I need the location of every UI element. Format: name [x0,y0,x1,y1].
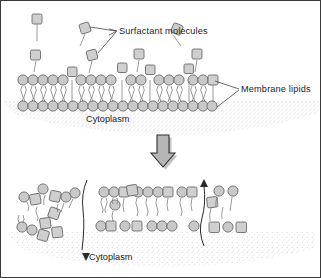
lipid-head [38,184,48,194]
lipid-head-inner [88,101,98,111]
surfactant-free-tilted [86,49,98,73]
lipid-head-outer [38,75,48,85]
lipid-head [177,187,187,197]
lipid-head [189,221,199,231]
lipid-head-inner [108,101,118,111]
lipid-head-inner [148,101,158,111]
surfactant-square [163,187,173,197]
lipid-head-outer [198,75,208,85]
lipid-head-inner [58,101,68,111]
surfactant-square [39,217,51,229]
lipid-head [17,222,27,232]
lipid-head-outer [58,75,68,85]
diagram-canvas: Surfactant molecules Membrane lipids Cyt… [1,1,321,278]
lipid-head [110,200,120,210]
surfactant-square [49,190,61,202]
lipid-head [228,186,238,196]
lipid-head-inner [28,101,38,111]
lipid-head [214,186,224,196]
lipid-head-outer [126,75,136,85]
lipid-head [157,221,167,231]
surfactant-free [32,14,42,41]
lipid-head-inner [158,101,168,111]
surfactant-square [132,221,142,231]
surfactant-free [31,50,41,72]
lipid-head-inner [138,101,148,111]
lipid-head-inner [188,101,198,111]
surfactant-free-tilted [79,22,92,46]
lipid-head-inner [118,101,128,111]
membrane-lipids-label: Membrane lipids [241,84,311,94]
surfactant-square [209,222,220,233]
lipid-head [96,221,106,231]
lipid-head [19,192,29,202]
cytoplasm-label-bottom: Cytoplasm [89,252,133,262]
surfactant-square [52,226,64,238]
lipid-head-outer [86,75,96,85]
lipid-head-inner [98,101,108,111]
lipid-head-outer [18,75,28,85]
lipid-head-outer [48,75,58,85]
lipid-head [153,187,163,197]
membrane-fragment-right [207,186,247,233]
surfactant-inserted [146,65,156,102]
lipid-head-outer [174,75,184,85]
surfactant-square [126,184,138,196]
lipid-head-outer [136,75,146,85]
surfactant-inserted [68,67,78,102]
surfactant-square [37,229,50,242]
cytoplasm-label-top: Cytoplasm [86,114,130,124]
lipid-head-outer [188,75,198,85]
lipid-head [27,225,37,235]
surfactant-square [187,187,197,197]
lipid-head [109,187,119,197]
lipid-head-inner [78,101,88,111]
surfactant-inserted [118,63,128,102]
lipid-head-inner [68,101,78,111]
surfactant-square [106,221,116,231]
lipid-head-outer [106,75,116,85]
lipid-head-inner [207,101,217,111]
lipid-head-outer [96,75,106,85]
lipid-head-inner [168,101,178,111]
lipid-head-inner [38,101,48,111]
membrane-fragment-middle [96,184,199,231]
lipid-head-inner [18,101,28,111]
lipid-head [70,188,80,198]
lipid-head-outer [28,75,38,85]
lipid-head [223,222,233,232]
surfactant-free [134,49,144,72]
lipid-head [99,187,109,197]
lipid-head [147,221,157,231]
lipid-head [120,221,130,231]
surfactant-square [29,193,41,205]
surfactant-square [236,222,247,233]
lipid-head [143,187,153,197]
lipid-head-inner [48,101,58,111]
lipid-head-inner [128,101,138,111]
lipid-head-outer [154,75,164,85]
lipid-head [167,221,177,231]
membrane-solubilization-figure: Surfactant molecules Membrane lipids Cyt… [0,0,321,278]
lipid-head-inner [178,101,188,111]
surfactant-label: Surfactant molecules [119,26,208,36]
lipid-head-outer [76,75,86,85]
lipid-head-outer [164,75,174,85]
